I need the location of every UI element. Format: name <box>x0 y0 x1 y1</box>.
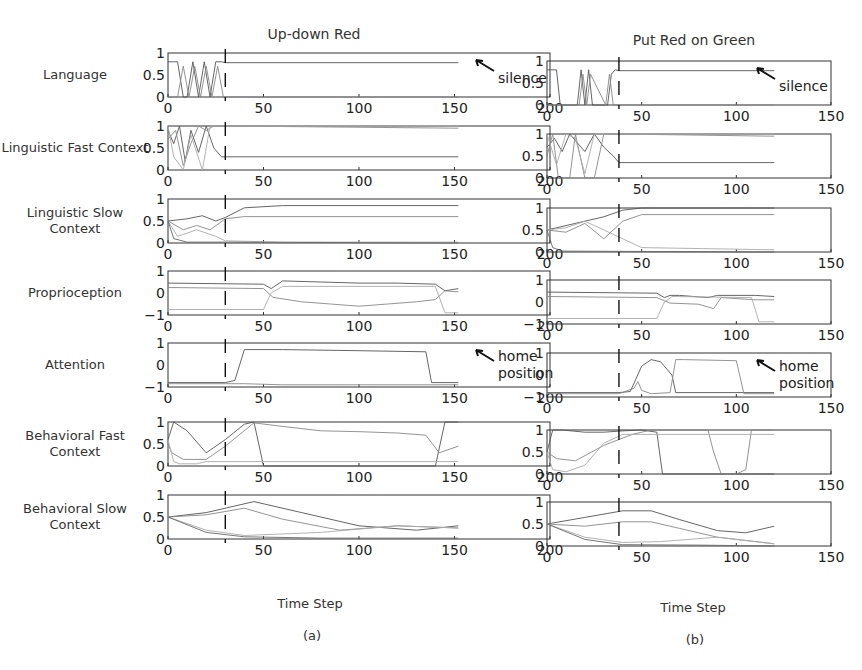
data-series-line <box>547 215 774 239</box>
plot-panel: 050100150200−101homeposition <box>138 335 580 409</box>
column-title-a: Up-down Red <box>267 26 360 42</box>
data-series-line <box>547 524 774 544</box>
y-tick-label: −1 <box>144 379 165 395</box>
x-tick-label: 50 <box>633 108 651 124</box>
x-tick-label: 100 <box>723 181 750 197</box>
y-tick-label: 0 <box>156 162 165 178</box>
plot-panel: 05010015020000.51silence <box>138 45 580 119</box>
y-tick-label: 1 <box>156 414 165 430</box>
data-series-line <box>547 511 774 533</box>
y-tick-label: 1 <box>156 118 165 134</box>
x-tick-label: 50 <box>633 477 651 493</box>
data-series-line <box>168 206 458 221</box>
data-series-line <box>168 286 458 312</box>
y-tick-label: 0 <box>156 357 165 373</box>
x-tick-label: 50 <box>633 400 651 416</box>
row-label-3: Proprioception <box>0 285 150 301</box>
x-tick-label: 100 <box>723 255 750 271</box>
data-series-line <box>547 297 774 309</box>
data-series-line <box>547 134 774 174</box>
y-tick-label: 0.5 <box>143 509 165 525</box>
y-tick-label: 1 <box>156 45 165 61</box>
x-axis-label-b: Time Step <box>660 600 726 615</box>
arrow-icon <box>476 350 494 361</box>
y-tick-label: 0.5 <box>522 75 544 91</box>
subfigure-label-b: (b) <box>686 632 704 647</box>
data-series-line <box>547 430 774 474</box>
y-tick-label: 0 <box>535 538 544 554</box>
y-tick-label: 0.5 <box>143 140 165 156</box>
annotation-text: silence <box>779 78 828 94</box>
data-series-line <box>168 221 458 242</box>
row-label-0: Language <box>0 67 150 83</box>
x-tick-label: 50 <box>633 181 651 197</box>
x-tick-label: 150 <box>818 327 845 343</box>
y-tick-label: 0.5 <box>143 67 165 83</box>
plot-panel: 05010015000.51 <box>517 422 861 496</box>
data-series-line <box>547 208 774 230</box>
data-series-line <box>168 440 458 464</box>
y-tick-label: 1 <box>535 126 544 142</box>
row-label-1: Linguistic Fast Context <box>0 140 150 156</box>
y-tick-label: 1 <box>535 422 544 438</box>
x-tick-label: 50 <box>255 246 273 262</box>
data-series-line <box>168 384 458 385</box>
x-tick-label: 150 <box>441 318 468 334</box>
y-tick-label: 0.5 <box>522 222 544 238</box>
data-series-line <box>547 434 774 471</box>
plot-panel: 05010015000.51 <box>517 200 861 274</box>
y-tick-label: 0.5 <box>143 213 165 229</box>
data-series-line <box>547 360 774 394</box>
annotation-text: home <box>779 358 819 374</box>
x-tick-label: 50 <box>255 469 273 485</box>
x-tick-label: 100 <box>723 400 750 416</box>
x-tick-label: 50 <box>255 542 273 558</box>
data-series-line <box>168 281 458 291</box>
plot-panel: 050100150−101homeposition <box>517 345 861 419</box>
data-series-line <box>168 517 458 538</box>
row-label-5: Behavioral Fast Context <box>0 428 150 460</box>
x-tick-label: 50 <box>255 318 273 334</box>
y-tick-label: 0 <box>535 97 544 113</box>
data-series-line <box>547 134 774 178</box>
plot-panel: 05010015020000.51 <box>138 414 580 488</box>
y-tick-label: 0 <box>535 244 544 260</box>
data-series-line <box>547 74 774 105</box>
y-tick-label: 1 <box>535 272 544 288</box>
data-series-line <box>168 502 458 531</box>
data-series-line <box>168 66 458 97</box>
y-tick-label: 1 <box>156 335 165 351</box>
x-tick-label: 150 <box>441 100 468 116</box>
plot-panel: 05010015000.51 <box>517 126 861 200</box>
y-tick-label: 1 <box>535 345 544 361</box>
x-tick-label: 150 <box>441 390 468 406</box>
column-title-b: Put Red on Green <box>633 32 755 48</box>
arrow-icon <box>476 60 494 71</box>
x-tick-label: 50 <box>633 327 651 343</box>
y-tick-label: 1 <box>156 263 165 279</box>
x-tick-label: 100 <box>346 318 373 334</box>
data-series-line <box>168 217 458 230</box>
y-tick-label: 1 <box>535 494 544 510</box>
x-tick-label: 100 <box>723 108 750 124</box>
y-tick-label: 0.5 <box>522 148 544 164</box>
y-tick-label: 1 <box>156 487 165 503</box>
x-tick-label: 150 <box>441 173 468 189</box>
data-series-line <box>168 62 458 97</box>
data-series-line <box>168 422 458 466</box>
y-tick-label: 0.5 <box>522 516 544 532</box>
x-tick-label: 150 <box>441 469 468 485</box>
arrow-icon <box>757 360 775 371</box>
x-tick-label: 150 <box>818 400 845 416</box>
y-tick-label: −1 <box>144 307 165 323</box>
x-axis-label-a: Time Step <box>277 596 343 611</box>
plot-panel: 05010015000.51 <box>517 494 861 568</box>
x-tick-label: 100 <box>723 477 750 493</box>
x-tick-label: 150 <box>818 181 845 197</box>
row-label-2: Linguistic Slow Context <box>0 205 150 237</box>
x-tick-label: 50 <box>255 100 273 116</box>
plot-panel: 05010015020000.51 <box>138 118 580 192</box>
data-series-line <box>547 297 774 322</box>
plot-panel: 05010015000.51silence <box>517 53 861 127</box>
y-tick-label: 1 <box>535 53 544 69</box>
